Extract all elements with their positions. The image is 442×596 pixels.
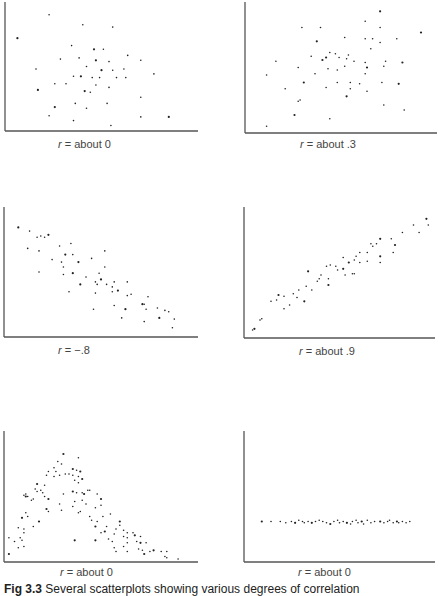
data-point: [396, 520, 398, 522]
data-point: [425, 218, 427, 220]
data-point: [299, 99, 301, 101]
data-point: [346, 95, 348, 97]
data-point: [95, 59, 97, 61]
data-point: [337, 520, 339, 522]
data-point: [108, 87, 110, 89]
data-point: [112, 286, 114, 288]
data-point: [53, 476, 55, 478]
data-point: [259, 319, 261, 321]
data-point: [25, 495, 27, 497]
data-point: [409, 521, 411, 523]
data-point: [140, 536, 142, 538]
data-point: [42, 492, 44, 494]
data-point: [314, 73, 316, 75]
data-point: [285, 522, 287, 524]
data-point: [342, 257, 344, 259]
data-point: [113, 281, 115, 283]
data-point: [364, 73, 366, 75]
data-point: [78, 512, 80, 514]
data-point: [266, 126, 268, 128]
data-point: [366, 91, 368, 93]
data-point: [78, 482, 80, 484]
data-point: [145, 308, 147, 310]
figure-caption: Fig 3.3 Several scatterplots showing var…: [4, 582, 360, 596]
data-point: [177, 558, 179, 560]
data-point: [413, 224, 415, 226]
data-point: [36, 483, 38, 485]
data-point: [53, 467, 55, 469]
data-point: [94, 539, 96, 541]
data-point: [100, 505, 102, 507]
data-point: [379, 255, 381, 257]
data-point: [147, 296, 149, 298]
data-point: [84, 90, 86, 92]
data-point: [34, 488, 36, 490]
data-point: [311, 522, 313, 524]
data-point: [327, 68, 329, 70]
data-point: [106, 284, 108, 286]
data-point: [110, 513, 112, 515]
data-point: [326, 266, 328, 268]
data-point: [91, 520, 93, 522]
data-point: [54, 83, 56, 85]
data-point: [342, 268, 344, 270]
data-point: [72, 490, 74, 492]
data-point: [138, 548, 140, 550]
data-point: [85, 503, 87, 505]
data-point: [140, 60, 142, 62]
label-text: = about .3: [304, 138, 356, 150]
data-point: [367, 252, 369, 254]
data-point: [95, 84, 97, 86]
data-point: [79, 283, 81, 285]
data-point: [16, 37, 18, 39]
data-point: [320, 274, 322, 276]
data-point: [112, 541, 114, 543]
data-point: [326, 522, 328, 524]
panel-label-p2: r = about .3: [300, 138, 356, 150]
data-point: [47, 234, 49, 236]
data-point: [108, 61, 110, 63]
data-point: [45, 508, 47, 510]
data-point: [333, 521, 335, 523]
data-point: [338, 57, 340, 59]
data-point: [113, 305, 115, 307]
data-point: [379, 262, 381, 264]
data-point: [127, 542, 129, 544]
data-point: [70, 243, 72, 245]
data-point: [8, 553, 10, 555]
data-point: [361, 520, 363, 522]
data-point: [398, 522, 400, 524]
data-point: [48, 14, 50, 16]
data-point: [64, 254, 66, 256]
data-point: [348, 261, 350, 263]
data-point: [59, 245, 61, 247]
data-point: [293, 114, 295, 116]
data-point: [35, 68, 37, 70]
data-point: [353, 61, 355, 63]
data-point: [116, 77, 118, 79]
data-point: [145, 542, 147, 544]
data-point: [29, 230, 31, 232]
data-point: [364, 62, 366, 64]
data-point: [372, 246, 374, 248]
data-point: [307, 270, 309, 272]
data-point: [78, 57, 80, 59]
data-point: [303, 300, 305, 302]
data-point: [77, 261, 79, 263]
data-point: [100, 69, 102, 71]
data-point: [87, 490, 89, 492]
scatter-plot-p3: [0, 180, 221, 380]
data-point: [316, 40, 318, 42]
data-point: [337, 69, 339, 71]
data-point: [23, 528, 25, 530]
data-point: [310, 56, 312, 58]
data-point: [266, 74, 268, 76]
data-point: [46, 475, 48, 477]
data-point: [132, 532, 134, 534]
data-point: [48, 115, 50, 117]
scatter-panel-r-about-0-3: r = about .3: [221, 0, 442, 180]
scatter-panel-r-about-0-9: r = about .9: [221, 180, 442, 380]
data-point: [297, 101, 299, 103]
scatter-panel-r-about-0-flat: r = about 0: [221, 380, 442, 592]
data-point: [172, 327, 174, 329]
